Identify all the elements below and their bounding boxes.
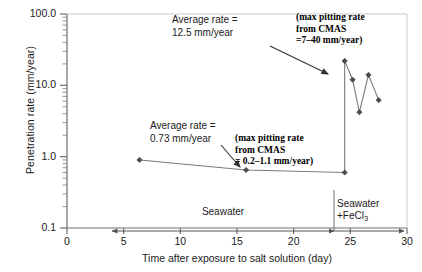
y-tick-label: 10.0 bbox=[10, 78, 56, 90]
y-minor-ticks bbox=[63, 17, 68, 206]
annotation-cmas-high-line1: (max pitting rate bbox=[296, 12, 365, 24]
x-axis-label: Time after exposure to salt solution (da… bbox=[67, 252, 407, 264]
x-tick-label: 10 bbox=[160, 235, 200, 247]
annotation-avg-rate-low-line2: 0.73 mm/year bbox=[150, 133, 216, 146]
phase-label-seawater-fecl3-main: Seawater bbox=[337, 198, 409, 210]
phase-label-seawater: Seawater bbox=[173, 206, 273, 218]
data-point-marker bbox=[137, 157, 142, 162]
annotation-cmas-low-line1: (max pitting rate bbox=[235, 133, 313, 145]
phase-label-fecl3-subscript: 3 bbox=[364, 214, 368, 223]
annotation-avg-rate-high-line2: 12.5 mm/year bbox=[172, 27, 238, 40]
data-point-marker bbox=[357, 110, 362, 115]
phase-label-seawater-fecl3-formula: +FeCl3 bbox=[337, 210, 409, 225]
annotation-avg-rate-low: Average rate = 0.73 mm/year bbox=[150, 120, 216, 145]
annotation-avg-rate-high: Average rate = 12.5 mm/year bbox=[172, 14, 238, 39]
y-axis-label: Penetration rate (mm/year) bbox=[24, 20, 36, 200]
phase-label-seawater-fecl3: Seawater +FeCl3 bbox=[337, 198, 409, 225]
arrow-avg-rate-high bbox=[270, 46, 328, 74]
annotation-cmas-high-line3: =7–40 mm/year) bbox=[296, 35, 365, 47]
annotation-cmas-low-line3: = 0.2–1.1 mm/year) bbox=[235, 156, 313, 168]
annotation-cmas-high-line2: from CMAS bbox=[296, 24, 365, 36]
x-tick-label: 20 bbox=[274, 235, 314, 247]
y-tick-label: 0.1 bbox=[10, 221, 56, 233]
x-tick-label: 0 bbox=[47, 235, 87, 247]
data-point-marker bbox=[342, 58, 347, 63]
y-major-ticks bbox=[60, 14, 67, 228]
data-point-marker bbox=[342, 170, 347, 175]
annotation-cmas-low: (max pitting rate from CMAS = 0.2–1.1 mm… bbox=[235, 133, 313, 168]
annotation-avg-rate-low-line1: Average rate = bbox=[150, 120, 216, 133]
x-tick-label: 5 bbox=[104, 235, 144, 247]
x-tick-label: 15 bbox=[217, 235, 257, 247]
data-point-marker bbox=[243, 167, 248, 172]
data-point-marker bbox=[366, 72, 371, 77]
annotation-avg-rate-high-line1: Average rate = bbox=[172, 14, 238, 27]
x-tick-label: 25 bbox=[330, 235, 370, 247]
y-tick-label: 1.0 bbox=[10, 150, 56, 162]
data-point-marker bbox=[350, 77, 355, 82]
chart-figure: Penetration rate (mm/year) Time after ex… bbox=[0, 0, 422, 272]
x-tick-label: 30 bbox=[387, 235, 422, 247]
phase-label-fecl3-text: +FeCl bbox=[337, 210, 364, 221]
data-point-marker bbox=[376, 98, 381, 103]
annotation-cmas-low-line2: from CMAS bbox=[235, 145, 313, 157]
annotation-cmas-high: (max pitting rate from CMAS =7–40 mm/yea… bbox=[296, 12, 365, 47]
y-tick-label: 100.0 bbox=[10, 7, 56, 19]
